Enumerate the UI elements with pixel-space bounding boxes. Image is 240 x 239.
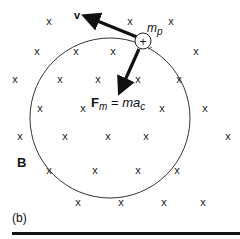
field-x-mark: x xyxy=(159,102,165,114)
field-x-mark: x xyxy=(105,130,111,142)
field-x-mark: x xyxy=(168,15,174,27)
field-x-mark: x xyxy=(12,73,18,85)
charge-symbol: + xyxy=(139,35,146,49)
field-x-mark: x xyxy=(193,45,199,57)
mass-label-sub: p xyxy=(156,26,163,37)
panel-label: (b) xyxy=(12,211,27,225)
field-x-mark: x xyxy=(143,130,149,142)
field-x-mark: x xyxy=(200,196,206,208)
magnetic-field-x-marks: xxxxxxxxxxxxxxxxxxxxxxxxxxxxx xyxy=(12,15,231,208)
field-x-mark: x xyxy=(127,15,133,27)
field-x-mark: x xyxy=(202,102,208,114)
magnetic-field-label: B xyxy=(17,155,26,170)
field-x-mark: x xyxy=(225,130,231,142)
field-x-mark: x xyxy=(135,164,141,176)
field-x-mark: x xyxy=(37,102,43,114)
field-x-mark: x xyxy=(95,73,101,85)
field-x-mark: x xyxy=(135,73,141,85)
circular-orbit-path xyxy=(30,38,190,198)
field-x-mark: x xyxy=(161,196,167,208)
field-x-mark: x xyxy=(34,45,40,57)
field-x-mark: x xyxy=(17,130,23,142)
field-x-mark: x xyxy=(57,73,63,85)
mass-label-base: m xyxy=(147,21,157,35)
field-x-mark: x xyxy=(75,196,81,208)
field-x-mark: x xyxy=(92,164,98,176)
mass-label: mp xyxy=(147,21,163,37)
velocity-label: v xyxy=(74,9,81,21)
field-x-mark: x xyxy=(174,164,180,176)
magnetic-field-diagram: xxxxxxxxxxxxxxxxxxxxxxxxxxxxx + v mp Fm … xyxy=(0,0,240,239)
bottom-rule xyxy=(12,232,240,235)
field-x-mark: x xyxy=(80,102,86,114)
field-x-mark: x xyxy=(110,45,116,57)
field-x-mark: x xyxy=(62,130,68,142)
force-equation: Fm = mac xyxy=(91,95,145,112)
field-x-mark: x xyxy=(46,15,52,27)
